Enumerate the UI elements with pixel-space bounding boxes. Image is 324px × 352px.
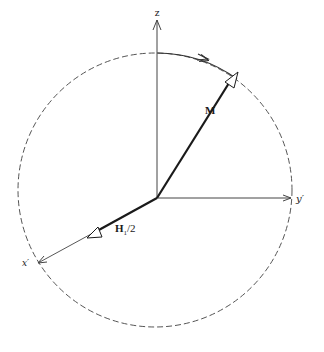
x-prime-axis-label: x′ [22,258,29,268]
z-axis-label: z [155,8,160,18]
precession-arc-solid [157,53,237,79]
y-prime-axis-label: y′ [295,193,305,204]
precession-circle-dashed [18,53,292,327]
magnetization-vector-label: M [205,104,216,116]
x-prime-axis-arrow-icon [38,256,47,263]
h1-half-vector-label: H1/2 [115,222,136,237]
rotating-frame-diagram: z y′ x′ H1/2 M [0,0,324,352]
magnetization-vector [157,83,229,198]
